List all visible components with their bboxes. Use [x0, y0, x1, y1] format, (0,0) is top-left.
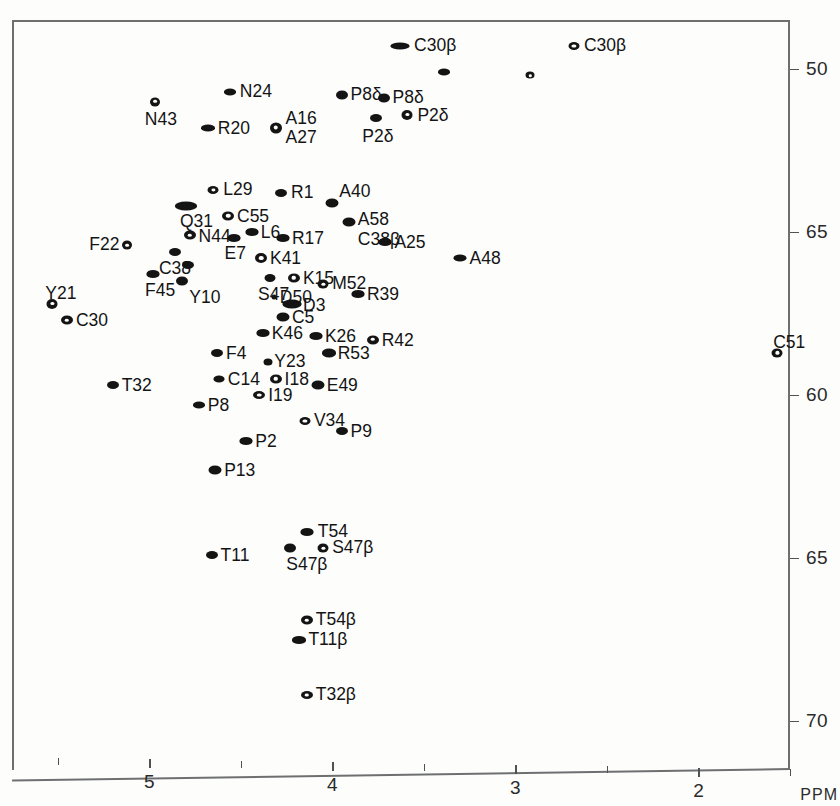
y-axis-tick: [790, 558, 799, 559]
peak-label-line: P2δ: [362, 127, 393, 145]
peak-label: K41: [270, 249, 301, 267]
axis-line-left: [12, 20, 14, 770]
peak-label-line: R20: [218, 119, 250, 137]
x-axis-minor-tick: [790, 769, 791, 776]
y-axis-tick: [790, 232, 799, 233]
peak-label-line: T11: [221, 546, 250, 564]
x-axis-tick-label: 4: [327, 774, 338, 796]
peak-label: C30β: [584, 36, 626, 54]
nmr-spectrum-figure: 5065606570 5432 C30βC30βN24P8δP8δN43P2δP…: [0, 0, 840, 806]
peak-label: C51: [773, 333, 805, 351]
peak-label: P8: [208, 396, 229, 414]
peak-marker-unlabeled: [438, 69, 450, 76]
peak-label-line: C30: [76, 311, 108, 329]
peak-marker: [107, 381, 119, 389]
x-axis-minor-tick: [424, 764, 425, 771]
peak-marker: [276, 312, 289, 321]
peak-label: P9: [351, 422, 372, 440]
peak-label-line: R42: [382, 331, 414, 349]
peak-marker: [253, 391, 265, 399]
x-axis-tick-label: 2: [693, 780, 704, 802]
peak-label: F45: [145, 281, 175, 299]
peak-marker: [311, 381, 324, 390]
peak-label: A16A27: [286, 109, 317, 148]
peak-label: R17: [292, 229, 324, 247]
peak-label: P8δ: [351, 85, 382, 103]
peak-label-line: R17: [292, 229, 324, 247]
peak-label: F4: [226, 344, 246, 362]
peak-marker: [61, 316, 73, 325]
peak-marker: [265, 274, 276, 282]
peak-marker: [454, 255, 467, 262]
peak-label: N24: [240, 82, 272, 100]
peak-marker: [255, 253, 267, 263]
peak-marker: [318, 544, 329, 553]
peak-marker: [336, 427, 348, 435]
peak-label-line: N24: [240, 82, 272, 100]
peak-label: C30β: [414, 36, 456, 54]
peak-label: C30: [76, 311, 108, 329]
y-axis-tick-label: 50: [806, 58, 828, 80]
peak-marker: [351, 290, 364, 298]
peak-marker-unlabeled: [526, 72, 535, 79]
peak-label-line: R53: [338, 344, 370, 362]
peak-marker: [245, 228, 258, 236]
peak-marker: [568, 42, 579, 50]
peak-marker: [213, 375, 224, 382]
peak-label-line: A58: [358, 210, 400, 230]
y-axis-tick-label: 70: [806, 710, 828, 732]
peak-marker: [270, 374, 282, 383]
peak-label: T32β: [316, 685, 356, 703]
peak-label-line: S47β: [286, 555, 327, 573]
peak-marker: [270, 122, 282, 133]
peak-marker: [175, 201, 197, 210]
peak-marker: [326, 198, 339, 207]
peak-label-line: L29: [223, 180, 252, 198]
x-axis-tick: [149, 759, 150, 768]
peak-marker: [336, 91, 348, 100]
y-axis-tick-label: 65: [806, 547, 828, 569]
y-axis-tick: [790, 69, 799, 70]
axis-line-bottom: [12, 768, 790, 781]
peak-marker: [275, 189, 287, 197]
peak-marker: [208, 186, 219, 194]
peak-label-line: K41: [270, 249, 301, 267]
x-axis-tick: [515, 765, 516, 774]
peak-label-line: I19: [268, 386, 292, 404]
peak-marker: [264, 359, 273, 366]
peak-label-line: P2δ: [417, 106, 448, 124]
peak-label-line: P2: [255, 432, 276, 450]
axis-line-top: [12, 20, 790, 22]
peak-marker-unlabeled: [182, 261, 194, 269]
peak-label: R39: [367, 285, 399, 303]
peak-label: F22: [89, 235, 119, 253]
y-axis-tick-label: 65: [806, 221, 828, 243]
peak-marker: [402, 110, 413, 120]
x-axis-minor-tick: [58, 758, 59, 765]
peak-label: S47β: [286, 555, 327, 573]
peak-marker: [292, 636, 306, 644]
peak-marker: [193, 401, 205, 408]
peak-marker: [150, 97, 160, 106]
peak-label-line: A40: [339, 182, 370, 200]
peak-label: P8δ: [393, 88, 424, 106]
peak-label: A25: [394, 233, 425, 251]
peak-marker: [309, 332, 322, 340]
peak-label-line: R39: [367, 285, 399, 303]
peak-marker: [322, 348, 336, 357]
peak-marker: [224, 88, 236, 95]
peak-label: C14: [228, 370, 260, 388]
peak-marker: [169, 248, 181, 256]
peak-label-line: Y10: [189, 288, 220, 306]
peak-label-line: F22: [89, 235, 119, 253]
peak-label: T11: [221, 546, 250, 564]
peak-label-line: S47β: [332, 538, 373, 556]
peak-label-line: A16: [286, 109, 317, 129]
peak-label-line: C30β: [584, 36, 626, 54]
x-axis-tick-label: 3: [510, 777, 521, 799]
plot-frame: 5065606570 5432 C30βC30βN24P8δP8δN43P2δP…: [12, 20, 790, 770]
ppm-axis-unit-label: PPM: [800, 786, 838, 804]
peak-label: R1: [291, 183, 313, 201]
peak-label: T11β: [308, 630, 347, 648]
x-axis-tick: [698, 768, 699, 777]
